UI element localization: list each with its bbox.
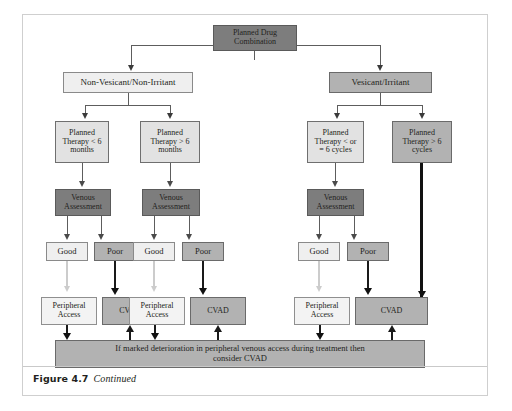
node-label: Planned Drug Combination [216, 29, 294, 47]
connector-root-left-v [131, 45, 132, 67]
node-non-vesicant-non-irritant: Non-Vesicant/Non-Irritant [63, 72, 193, 93]
connector-poor2-to-cvad2 [202, 261, 204, 291]
node-vesicant-irritant: Vesicant/Irritant [329, 72, 432, 93]
node-poor-1: Poor [94, 242, 136, 261]
connector-venous2-good [154, 216, 155, 236]
node-label: Good [310, 247, 329, 257]
node-good-2: Good [133, 242, 175, 261]
arrow-to-venous-3 [332, 181, 338, 187]
connector-therapy2-to-venous2 [170, 163, 171, 183]
arrow-to-good-2 [151, 234, 157, 240]
node-good-1: Good [46, 242, 88, 261]
node-label: Non-Vesicant/Non-Irritant [81, 77, 176, 87]
banner-line-2: consider CVAD [213, 354, 267, 364]
figure-caption-text: Continued [94, 373, 137, 384]
figure-number: Figure 4.7 [33, 373, 89, 384]
arrow-to-cvad-1 [111, 288, 119, 295]
arrow-to-peripheral-3 [316, 286, 322, 292]
node-label: Poor [107, 247, 123, 257]
node-label: Vesicant/Irritant [352, 77, 410, 87]
connector-venous1-good [67, 216, 68, 236]
node-therapy-upto-6-cycles: Planned Therapy < or = 6 cycles [307, 121, 364, 163]
connector-root-right-h [297, 45, 381, 46]
arrow-to-peripheral-1 [64, 286, 70, 292]
connector-root-stem [254, 51, 255, 60]
node-venous-assessment-1: Venous Assessment [55, 189, 111, 216]
node-therapy-over-6-cycles: Planned Therapy > 6 cycles [392, 121, 452, 163]
node-peripheral-access-2: Peripheral Access [129, 297, 185, 325]
node-label-line2: Assessment [152, 203, 190, 212]
arrow-to-non-vesicant [128, 65, 134, 71]
connector-left-branch-h [85, 105, 171, 106]
node-label: Good [58, 247, 77, 257]
connector-poor3-to-cvad3 [367, 261, 369, 291]
node-venous-assessment-2: Venous Assessment [142, 189, 200, 216]
node-label-line2: Assessment [317, 203, 355, 212]
arrow-to-good-1 [64, 234, 70, 240]
connector-good2-to-peripheral2 [153, 261, 155, 289]
connector-right-branch-stem [380, 93, 381, 105]
arrow-to-cvad-3 [364, 288, 372, 295]
node-label-line2: Access [311, 311, 334, 320]
node-cvad-2: CVAD [190, 297, 246, 325]
arrow-cvad3-up [388, 325, 396, 332]
connector-left-branch-stem [128, 93, 129, 105]
node-therapy-over-6-months: Planned Therapy > 6 months [140, 121, 200, 163]
node-label-line3: months [70, 146, 94, 155]
flowchart-diagram: Planned Drug Combination Non-Vesicant/No… [23, 15, 487, 363]
connector-good1-to-peripheral1 [66, 261, 68, 289]
node-planned-drug-combination: Planned Drug Combination [213, 25, 297, 51]
node-venous-assessment-3: Venous Assessment [307, 189, 364, 216]
arrow-to-vesicant [377, 65, 383, 71]
node-label-line2: Assessment [64, 203, 102, 212]
arrow-to-therapy-3 [334, 113, 340, 119]
arrow-to-therapy-1 [82, 113, 88, 119]
arrow-to-therapy-4 [419, 113, 425, 119]
node-cvad-3: CVAD [355, 297, 428, 325]
connector-venous1-poor [101, 216, 102, 236]
arrow-to-venous-2 [167, 181, 173, 187]
arrow-to-therapy-2 [167, 113, 173, 119]
connector-therapy1-to-venous1 [82, 163, 83, 183]
node-label: Poor [360, 247, 376, 257]
node-label-line2: Access [146, 311, 169, 320]
node-label: Poor [195, 247, 211, 257]
node-poor-3: Poor [347, 242, 389, 261]
arrow-cvad2-up [214, 325, 222, 332]
node-poor-2: Poor [182, 242, 224, 261]
node-label: CVAD [381, 307, 403, 316]
arrow-to-good-3 [316, 234, 322, 240]
arrow-to-poor-2 [186, 234, 192, 240]
arrow-to-venous-1 [79, 181, 85, 187]
node-peripheral-access-3: Peripheral Access [294, 297, 350, 325]
arrow-peripheral1-down [63, 333, 71, 340]
arrow-to-poor-1 [98, 234, 104, 240]
arrow-to-poor-3 [351, 234, 357, 240]
arrow-peripheral3-down [316, 333, 324, 340]
node-banner-consider-cvad: If marked deterioration in peripheral ve… [55, 340, 425, 368]
node-label: Good [145, 247, 164, 257]
connector-root-left-h [131, 45, 214, 46]
node-label-line3: = 6 cycles [319, 146, 352, 155]
connector-root-right-v [380, 45, 381, 67]
arrow-to-cvad-2 [199, 288, 207, 295]
node-label-line3: cycles [412, 146, 432, 155]
node-label-line3: months [158, 146, 182, 155]
connector-venous3-good [319, 216, 320, 236]
connector-venous3-poor [354, 216, 355, 236]
arrow-cvad1-up [126, 325, 134, 332]
node-label: CVAD [207, 307, 229, 316]
node-label-line2: Access [58, 311, 81, 320]
arrow-to-peripheral-2 [151, 286, 157, 292]
node-therapy-under-6-months: Planned Therapy < 6 months [55, 121, 109, 163]
figure-frame: Planned Drug Combination Non-Vesicant/No… [22, 14, 488, 396]
node-good-3: Good [298, 242, 340, 261]
arrow-peripheral2-down [151, 333, 159, 340]
caption-divider [23, 366, 487, 367]
connector-good3-to-peripheral3 [318, 261, 320, 289]
node-peripheral-access-1: Peripheral Access [41, 297, 97, 325]
connector-poor1-to-cvad1 [114, 261, 116, 291]
figure-caption: Figure 4.7Continued [33, 373, 136, 384]
connector-therapy4-to-cvad3 [420, 163, 423, 297]
connector-venous2-poor [189, 216, 190, 236]
